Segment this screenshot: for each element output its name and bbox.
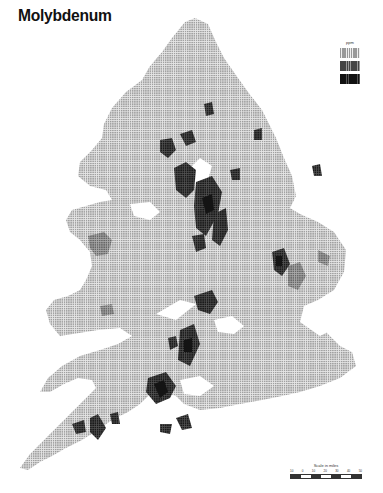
scale-tick: 40 [347, 469, 350, 473]
legend-swatch-high [340, 74, 360, 84]
scale-bar-graphic [290, 474, 362, 479]
legend-swatch-medium [340, 61, 360, 71]
scale-bar: Scale in miles 10 0 10 20 30 40 50 [290, 463, 362, 479]
england-landmass [20, 18, 356, 470]
scale-tick: 10 [312, 469, 315, 473]
map-legend: ppm [338, 40, 362, 87]
scale-tick: 10 [290, 469, 293, 473]
scale-title: Scale in miles [290, 463, 362, 468]
legend-swatch-low [340, 48, 360, 58]
scale-tick: 30 [335, 469, 338, 473]
england-wales-map [0, 0, 383, 493]
legend-title: ppm [338, 40, 362, 46]
scale-tick: 0 [302, 469, 304, 473]
scale-tick: 20 [323, 469, 326, 473]
scale-ticks: 10 0 10 20 30 40 50 [290, 469, 362, 473]
scale-tick: 50 [359, 469, 362, 473]
